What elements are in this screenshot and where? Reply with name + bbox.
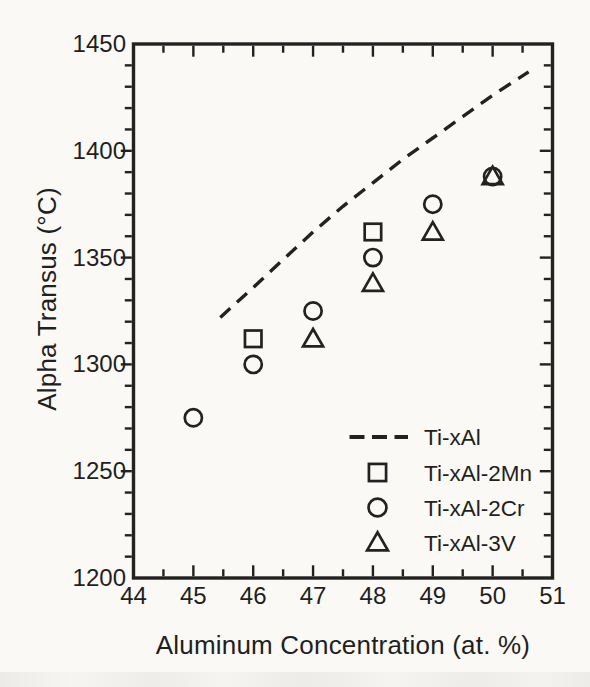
series-ti-xal-line xyxy=(220,72,528,318)
legend-entry-ti-xal-2cr: Ti-xAl-2Cr xyxy=(369,496,525,521)
x-tick-label: 46 xyxy=(240,582,267,609)
x-tick-label: 45 xyxy=(180,582,207,609)
y-tick-labels: 120012501300135014001450 xyxy=(73,30,126,591)
series-ti-xal-3v-markers xyxy=(303,167,503,347)
legend-label: Ti-xAl xyxy=(424,425,481,450)
legend-circle-icon xyxy=(369,499,387,517)
legend-entry-ti-xal-3v: Ti-xAl-3V xyxy=(367,531,516,556)
legend-entry-ti-xal-2mn: Ti-xAl-2Mn xyxy=(369,461,532,486)
y-tick-label: 1450 xyxy=(73,30,126,57)
legend-entry-ti-xal: Ti-xAl xyxy=(350,425,481,450)
x-tick-labels: 4445464748495051 xyxy=(120,582,566,609)
x-tick-label: 48 xyxy=(360,582,387,609)
y-tick-label: 1250 xyxy=(73,457,126,484)
x-tick-label: 47 xyxy=(300,582,327,609)
legend-label: Ti-xAl-2Mn xyxy=(424,461,532,486)
y-axis-title: Alpha Transus (°C) xyxy=(32,187,63,411)
y-tick-label: 1300 xyxy=(73,350,126,377)
x-tick-label: 50 xyxy=(479,582,506,609)
legend-label: Ti-xAl-3V xyxy=(424,531,516,556)
scan-noise-band xyxy=(0,672,590,687)
x-tick-label: 51 xyxy=(539,582,566,609)
x-axis-title: Aluminum Concentration (at. %) xyxy=(133,630,553,661)
y-tick-label: 1200 xyxy=(73,564,126,591)
legend-label: Ti-xAl-2Cr xyxy=(424,496,525,521)
legend-square-icon xyxy=(369,464,386,481)
x-tick-label: 49 xyxy=(419,582,446,609)
alpha-transus-chart: 4445464748495051120012501300135014001450… xyxy=(0,0,590,687)
y-tick-label: 1400 xyxy=(73,137,126,164)
legend-triangle-icon xyxy=(367,532,388,550)
y-tick-label: 1350 xyxy=(73,244,126,271)
figure: 4445464748495051120012501300135014001450… xyxy=(0,0,590,687)
legend: Ti-xAlTi-xAl-2MnTi-xAl-2CrTi-xAl-3V xyxy=(350,425,532,556)
